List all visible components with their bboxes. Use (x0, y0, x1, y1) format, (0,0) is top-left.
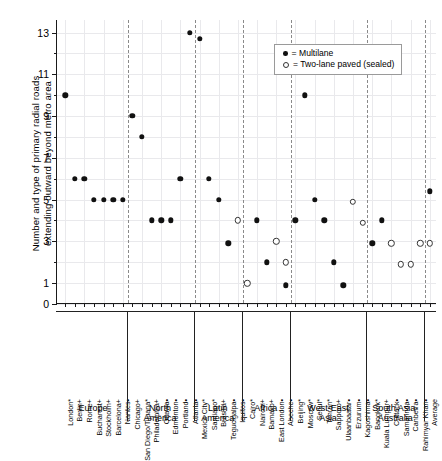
data-point-multilane (62, 92, 67, 97)
y-tick-minor (54, 53, 57, 54)
data-point-multilane (82, 176, 87, 181)
y-tick-label: 0 (43, 299, 49, 310)
data-point-multilane (302, 92, 307, 97)
y-tick-label: 3 (43, 236, 49, 247)
y-tick-minor (54, 220, 57, 221)
data-point-multilane (101, 197, 106, 202)
data-point-multilane (226, 241, 231, 246)
x-tick (132, 303, 133, 307)
data-point-twolane (407, 261, 413, 267)
x-tick (295, 303, 296, 307)
data-point-multilane (91, 197, 96, 202)
x-tick (104, 303, 105, 307)
x-tick (180, 303, 181, 307)
x-axis-label-panel: London*Berlin+Rome+Bucharest+Stockholm+B… (56, 311, 436, 437)
y-tick-major (52, 74, 57, 75)
x-tick (334, 303, 335, 307)
gridline-v (123, 20, 124, 303)
x-tick (142, 303, 143, 307)
x-tick (75, 303, 76, 307)
gridline-v (219, 20, 220, 303)
data-point-multilane (312, 197, 317, 202)
y-tick-minor (54, 137, 57, 138)
data-point-multilane (331, 260, 336, 265)
x-tick (411, 303, 412, 307)
gridline-v (430, 20, 431, 303)
x-tick (113, 303, 114, 307)
data-point-multilane (379, 218, 384, 223)
data-point-multilane (322, 218, 327, 223)
x-tick (238, 303, 239, 307)
x-tick (286, 303, 287, 307)
data-point-twolane (417, 240, 423, 246)
x-tick (190, 303, 191, 307)
gridline-h (57, 33, 436, 34)
y-tick-label: 9 (43, 111, 49, 122)
group-separator (243, 20, 244, 303)
x-tick (219, 303, 220, 307)
group-label: South Asia- Australia (350, 403, 440, 423)
y-tick-label: 7 (43, 153, 49, 164)
x-tick (161, 303, 162, 307)
x-tick (257, 303, 258, 307)
x-tick (152, 303, 153, 307)
data-point-multilane (120, 197, 125, 202)
x-tick (305, 303, 306, 307)
y-tick-major (52, 200, 57, 201)
data-point-twolane (359, 219, 365, 225)
data-point-twolane (244, 280, 250, 286)
x-tick (391, 303, 392, 307)
gridline-v (257, 20, 258, 303)
data-point-twolane (273, 238, 279, 244)
data-point-multilane (72, 176, 77, 181)
data-point-multilane (130, 113, 135, 118)
x-tick (228, 303, 229, 307)
x-tick (267, 303, 268, 307)
data-point-multilane (206, 176, 211, 181)
x-tick (324, 303, 325, 307)
data-point-multilane (197, 36, 202, 41)
x-tick (247, 303, 248, 307)
x-tick (372, 303, 373, 307)
legend-label-twolane: = Two-lane paved (sealed) (293, 59, 394, 70)
x-tick (401, 303, 402, 307)
group-separator (128, 20, 129, 303)
data-point-multilane (293, 218, 298, 223)
y-tick-major (52, 304, 57, 305)
gridline-v (84, 20, 85, 303)
y-tick-label: 11 (38, 69, 49, 80)
x-tick (353, 303, 354, 307)
data-point-multilane (216, 197, 221, 202)
x-tick (430, 303, 431, 307)
data-point-twolane (388, 240, 394, 246)
data-point-multilane (370, 241, 375, 246)
gridline-h (57, 158, 436, 159)
y-tick-major (52, 158, 57, 159)
gridline-v (161, 20, 162, 303)
gridline-h (57, 137, 436, 138)
y-tick-minor (54, 179, 57, 180)
y-tick-minor (54, 262, 57, 263)
y-tick-major (52, 241, 57, 242)
x-tick (94, 303, 95, 307)
data-point-multilane (110, 197, 115, 202)
x-tick (65, 303, 66, 307)
data-point-multilane (168, 218, 173, 223)
data-point-multilane (187, 30, 192, 35)
gridline-h (57, 241, 436, 242)
x-tick (315, 303, 316, 307)
y-tick-label: 5 (43, 194, 49, 205)
y-tick-label: 13 (37, 27, 49, 38)
y-tick-minor (54, 95, 57, 96)
data-point-multilane (254, 218, 259, 223)
data-point-twolane (398, 261, 404, 267)
x-tick (343, 303, 344, 307)
legend-entry-multilane: = Multilane (281, 48, 394, 59)
open-circle-icon (283, 62, 289, 68)
x-tick (123, 303, 124, 307)
x-tick (84, 303, 85, 307)
x-tick (209, 303, 210, 307)
legend-entry-twolane: = Two-lane paved (sealed) (281, 59, 394, 70)
data-point-multilane (149, 218, 154, 223)
legend-label-multilane: = Multilane (292, 48, 334, 59)
